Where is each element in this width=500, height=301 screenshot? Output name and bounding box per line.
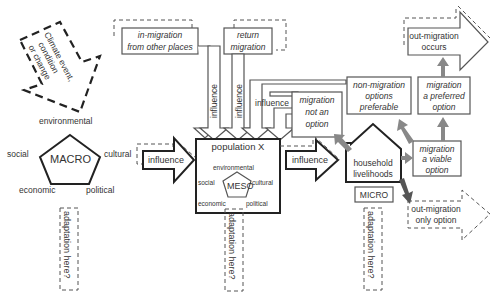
svg-text:a preferred: a preferred [423,91,465,101]
macro-label: MACRO [50,153,91,165]
return-migration-influence-label: influence [234,84,244,118]
svg-text:return: return [237,30,259,40]
outcome-not-an-option: migration not an option [292,92,342,137]
arrow-to-only-option [399,178,413,204]
outcome-viable-option: migration a viable option [413,141,461,176]
population-group: population X environmental MESO social c… [196,139,280,291]
macro-influence-label: influence [148,155,184,165]
svg-text:migration: migration [300,95,335,105]
svg-text:preferable: preferable [359,102,399,112]
svg-text:migration: migration [427,80,462,90]
in-migration-group: in-migration from other places influence [114,20,228,140]
outcome-non-migration-preferable: non-migration options preferable [347,77,411,114]
macro-social-label: social [7,149,29,159]
in-migration-influence-label: influence [209,84,219,118]
macro-environmental-label: environmental [39,116,93,126]
svg-text:out-migration: out-migration [411,204,461,214]
outcome-out-migration-occurs: out-migration occurs [404,6,490,70]
svg-text:from other places: from other places [127,42,193,52]
macro-adaptation-label: adaptation here? [62,211,72,279]
svg-text:social: social [198,179,215,186]
svg-text:non-migration: non-migration [353,80,405,90]
outcome-preferred-option: migration a preferred option [418,77,470,114]
meso-influence-label: influence [292,155,328,165]
migration-adaptation-diagram: Climate event, condition or change envir… [0,0,500,301]
svg-text:migration: migration [231,42,266,52]
svg-text:option: option [425,165,448,175]
svg-text:environmental: environmental [213,164,254,171]
svg-text:economic: economic [198,200,227,207]
macro-influence-arrow: influence [137,138,196,182]
macro-political-label: political [86,185,114,195]
household-group: household livelihoods MICRO adaptation h… [346,124,401,290]
meso-influence-arrow: influence [280,136,340,180]
outcome-out-migration-only-option: out-migration only option [408,190,490,240]
micro-adaptation-label: adaptation here? [366,211,376,279]
svg-text:in-migration: in-migration [138,30,183,40]
micro-label: MICRO [360,190,389,200]
svg-text:option: option [305,119,328,129]
svg-text:options: options [365,91,393,101]
population-title: population X [212,141,265,152]
svg-text:livelihoods: livelihoods [353,169,393,179]
macro-cultural-label: cultural [104,149,132,159]
meso-label: MESO [227,181,254,191]
svg-text:household: household [353,158,393,168]
macro-economic-label: economic [19,185,56,195]
arrow-to-viable [401,152,413,164]
svg-text:occurs: occurs [421,42,446,52]
svg-text:migration: migration [420,144,455,154]
macro-group: environmental MACRO social cultural econ… [7,116,132,290]
arrow-to-non-migration [397,119,414,144]
climate-event-arrow: Climate event, condition or change [20,22,100,112]
svg-text:option: option [432,102,455,112]
svg-text:out-migration: out-migration [409,31,459,41]
svg-text:political: political [246,200,268,208]
svg-text:a viable: a viable [422,154,452,164]
svg-text:only option: only option [415,215,456,225]
non-migration-influence-label: influence [255,98,289,108]
meso-adaptation-label: adaptation here? [227,212,237,280]
arrow-to-preferred [437,117,449,141]
arrow-to-occurs [437,57,449,77]
svg-text:not an: not an [305,107,329,117]
svg-text:cultural: cultural [252,179,274,186]
